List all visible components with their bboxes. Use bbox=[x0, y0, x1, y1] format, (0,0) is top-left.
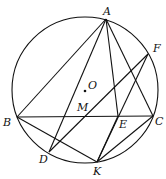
segment-bk bbox=[17, 117, 97, 162]
label-c: C bbox=[155, 115, 164, 128]
label-o: O bbox=[88, 79, 97, 92]
segment-ae bbox=[106, 19, 118, 116]
label-m: M bbox=[76, 101, 89, 114]
label-d: D bbox=[38, 153, 48, 166]
point-labels: A F B C E M D K O bbox=[2, 5, 164, 178]
center-point-o bbox=[84, 90, 87, 93]
segment-df bbox=[49, 54, 148, 152]
label-f: F bbox=[152, 42, 161, 55]
segment-ab bbox=[17, 19, 106, 117]
label-a: A bbox=[102, 5, 111, 18]
label-e: E bbox=[118, 118, 127, 131]
segment-ad bbox=[49, 19, 106, 152]
label-b: B bbox=[2, 116, 11, 129]
geometry-diagram: A F B C E M D K O bbox=[0, 0, 166, 179]
segment-fk bbox=[97, 54, 148, 162]
segment-ac bbox=[106, 19, 153, 116]
label-k: K bbox=[92, 165, 102, 178]
